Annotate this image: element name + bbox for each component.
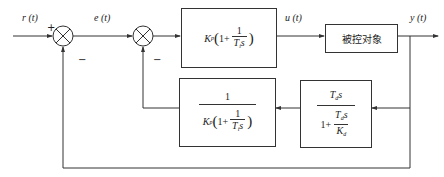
inverse-pi-expression: 1 Kp ( 1+ 1 Tis ) — [199, 90, 256, 135]
plant-block: 被控对象 — [325, 24, 398, 53]
minus-sign-sum2: − — [153, 54, 161, 65]
summing-junction-2 — [133, 26, 153, 46]
signal-label-e: e (t) — [94, 12, 110, 23]
summing-junction-1 — [53, 26, 73, 46]
signal-label-r: r (t) — [22, 12, 38, 23]
pi-controller-expression: Kp ( 1+ 1 Tis ) — [204, 25, 253, 52]
inverse-pi-block: 1 Kp ( 1+ 1 Tis ) — [179, 78, 276, 147]
plus-sign-sum1: + — [47, 22, 55, 33]
plant-label: 被控对象 — [342, 31, 382, 46]
signal-label-u: u (t) — [285, 12, 302, 23]
pi-controller-block: Kp ( 1+ 1 Tis ) — [181, 8, 277, 68]
derivative-block: Tds 1+ Tds Kd — [300, 80, 372, 148]
derivative-expression: Tds 1+ Tds Kd — [317, 88, 354, 140]
minus-sign-sum1: − — [78, 54, 86, 65]
signal-label-y: y (t) — [410, 12, 426, 23]
